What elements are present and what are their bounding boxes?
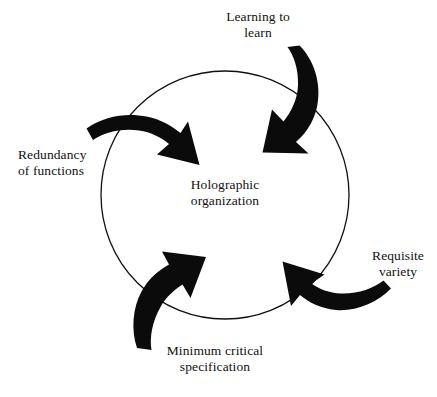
center-label: Holographic organization	[160, 177, 290, 208]
center-label-line-1: Holographic	[160, 177, 290, 193]
node-label-redundancy-of-functions-line-1: Redundancy	[18, 147, 114, 163]
node-label-redundancy-of-functions-line-2: of functions	[18, 163, 114, 179]
node-label-learning-to-learn-line-2: learn	[203, 25, 313, 41]
node-label-minimum-critical-specification-line-2: specification	[140, 359, 290, 375]
node-label-learning-to-learn-line-1: Learning to	[203, 9, 313, 25]
node-label-redundancy-of-functions: Redundancy of functions	[18, 147, 114, 178]
node-label-learning-to-learn: Learning to learn	[203, 9, 313, 40]
node-label-minimum-critical-specification: Minimum critical specification	[140, 343, 290, 374]
node-label-requisite-variety-line-2: variety	[360, 264, 436, 280]
arrow-learning-to-learn-icon	[263, 46, 319, 154]
holographic-organization-diagram: Holographic organization Learning to lea…	[0, 0, 437, 397]
arrow-minimum-critical-specification-icon	[133, 252, 206, 351]
node-label-minimum-critical-specification-line-1: Minimum critical	[140, 343, 290, 359]
center-label-line-2: organization	[160, 193, 290, 209]
node-label-requisite-variety: Requisite variety	[360, 248, 436, 279]
node-label-requisite-variety-line-1: Requisite	[360, 248, 436, 264]
